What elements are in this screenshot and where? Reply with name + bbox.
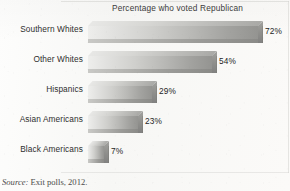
bar-row: Southern Whites 72% <box>0 18 290 48</box>
chart-title: Percentage who voted Republican <box>112 3 272 14</box>
bar-value-label: 29% <box>159 86 176 97</box>
bar-right-edge <box>156 86 157 103</box>
category-label: Asian Americans <box>0 114 83 125</box>
category-label: Black Americans <box>0 144 83 155</box>
category-label: Hispanics <box>0 84 83 95</box>
source-note-prefix: Source: <box>2 177 28 187</box>
bar-row: Asian Americans 23% <box>0 108 290 138</box>
bar[interactable] <box>88 21 258 43</box>
bar-value-label: 54% <box>219 56 236 67</box>
bar-row: Black Americans 7% <box>0 138 290 168</box>
bar-right-edge <box>142 116 143 133</box>
bar-bottom-face <box>88 39 258 43</box>
bar-front-face <box>88 56 212 69</box>
bar[interactable] <box>88 81 152 103</box>
bar[interactable] <box>88 51 212 73</box>
bar-right-edge <box>262 26 263 43</box>
bar-right-edge <box>108 146 109 163</box>
category-label: Southern Whites <box>0 24 83 35</box>
chart-plot-area: Southern Whites 72% Other Whites 54% <box>0 18 290 170</box>
chart-figure: Percentage who voted Republican Southern… <box>0 0 290 191</box>
bar-front-face <box>88 146 104 159</box>
bar-front-face <box>88 26 258 39</box>
bar-right-edge <box>216 56 217 73</box>
chart-frame-bottom-border <box>61 172 289 173</box>
bar-bottom-face <box>88 159 104 163</box>
bar-bottom-face <box>88 99 152 103</box>
bar-row: Other Whites 54% <box>0 48 290 78</box>
chart-frame-top-border <box>61 1 289 2</box>
bar-bottom-face <box>88 69 212 73</box>
bar[interactable] <box>88 111 138 133</box>
source-note: Source: Exit polls, 2012. <box>2 177 87 188</box>
bar-row: Hispanics 29% <box>0 78 290 108</box>
bar-front-face <box>88 116 138 129</box>
bar-bottom-face <box>88 129 138 133</box>
bar-value-label: 7% <box>111 146 123 157</box>
category-label: Other Whites <box>0 54 83 65</box>
bar-value-label: 72% <box>265 26 282 37</box>
bar[interactable] <box>88 141 104 163</box>
bar-front-face <box>88 86 152 99</box>
source-note-text: Exit polls, 2012. <box>28 177 87 187</box>
bar-value-label: 23% <box>145 116 162 127</box>
